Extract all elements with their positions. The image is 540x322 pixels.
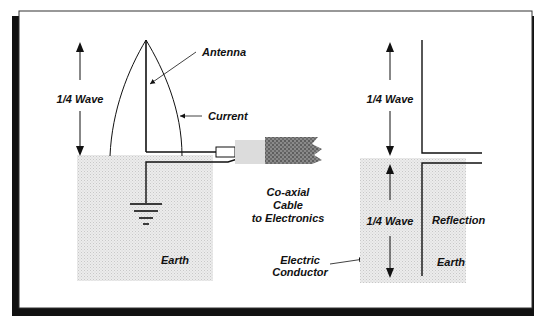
- coax-label-line-2: Cable: [273, 199, 303, 211]
- coax-label-line-1: Co-axial: [267, 186, 311, 198]
- coax-shield-transition: [235, 140, 265, 164]
- coax-cable: [265, 137, 322, 164]
- coax-connector: [216, 147, 235, 157]
- coax-label-line-3: to Electronics: [252, 212, 325, 224]
- conductor-label-line-2: Conductor: [272, 266, 328, 278]
- right-upper-wave-label: 1/4 Wave: [367, 93, 414, 105]
- current-label: Current: [208, 110, 249, 122]
- antenna-diagram: 1/4 Wave Antenna Current Earth Co-axial …: [0, 0, 540, 322]
- left-earth-label: Earth: [161, 254, 189, 266]
- reflection-label: Reflection: [432, 214, 485, 226]
- right-earth-label: Earth: [437, 256, 465, 268]
- conductor-label-line-1: Electric: [280, 254, 320, 266]
- antenna-label: Antenna: [201, 46, 246, 58]
- left-wave-label: 1/4 Wave: [57, 93, 104, 105]
- right-lower-wave-label: 1/4 Wave: [367, 215, 414, 227]
